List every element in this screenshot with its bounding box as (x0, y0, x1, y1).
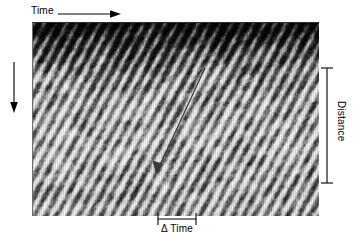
distance-bracket (321, 68, 333, 183)
space-time-figure: Time Space Distance Δ Time (0, 0, 364, 241)
space-axis-arrow (10, 62, 18, 113)
delta-time-label: Δ Time (161, 223, 193, 234)
kymograph-image (33, 23, 319, 216)
distance-label: Distance (336, 101, 347, 142)
time-axis-label: Time (31, 5, 54, 16)
time-axis-arrow (58, 10, 121, 18)
kymograph-plot-area (32, 22, 319, 216)
